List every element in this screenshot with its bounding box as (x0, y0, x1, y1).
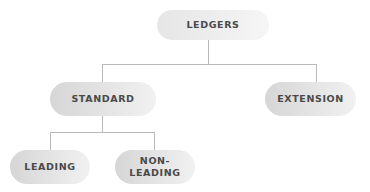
connector-level1-horizontal (102, 64, 317, 65)
connector-to-standard (102, 64, 103, 82)
node-extension-label: EXTENSION (277, 93, 344, 105)
node-standard-label: STANDARD (71, 93, 134, 105)
node-non-leading-label-line1: NON- (140, 155, 170, 167)
connector-ledgers-down (208, 40, 209, 64)
node-non-leading-label-line2: LEADING (129, 167, 180, 179)
connector-to-non-leading (154, 132, 155, 150)
node-ledgers-label: LEDGERS (186, 19, 239, 31)
node-extension: EXTENSION (265, 82, 356, 116)
node-ledgers: LEDGERS (157, 10, 269, 40)
connector-level2-horizontal (50, 132, 155, 133)
connector-to-leading (50, 132, 51, 150)
node-non-leading: NON- LEADING (115, 150, 195, 184)
connector-to-extension (316, 64, 317, 82)
node-standard: STANDARD (50, 82, 156, 116)
node-leading: LEADING (10, 150, 90, 184)
connector-standard-down (102, 116, 103, 132)
node-leading-label: LEADING (24, 161, 75, 173)
